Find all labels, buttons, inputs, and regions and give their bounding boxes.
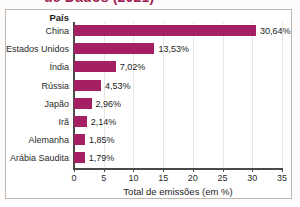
x-axis-tick	[223, 168, 224, 172]
x-axis-tick-label: 25	[218, 173, 228, 183]
bar-category-label: Irã	[6, 117, 69, 127]
bar	[74, 134, 85, 145]
x-axis-tick-label: 20	[188, 173, 198, 183]
chart-frame: País 05101520253035 China30,64%Estados U…	[5, 9, 292, 199]
bar	[74, 25, 256, 36]
bar-value-label: 2,96%	[96, 99, 122, 109]
page-edge	[0, 201, 300, 207]
x-axis-tick-label: 0	[71, 173, 76, 183]
bar-value-label: 1,79%	[89, 153, 115, 163]
bar-category-label: Rússia	[6, 81, 69, 91]
bar	[74, 43, 154, 54]
chart-title-text: de Dados (2021)	[44, 0, 154, 5]
x-axis-tick-label: 30	[247, 173, 257, 183]
bar	[74, 116, 87, 127]
x-axis-tick-label: 10	[128, 173, 138, 183]
x-axis-tick	[74, 168, 75, 172]
bar-value-label: 13,53%	[158, 44, 189, 54]
bar-value-label: 4,53%	[105, 81, 131, 91]
x-axis-tick	[193, 168, 194, 172]
bar-value-label: 1,85%	[89, 135, 115, 145]
clipped-chart-title: de Dados (2021)	[0, 0, 300, 7]
bar-value-label: 2,14%	[91, 117, 117, 127]
x-axis-tick-label: 15	[158, 173, 168, 183]
gridline	[223, 22, 224, 168]
bar	[74, 80, 101, 91]
gridline	[282, 22, 283, 168]
x-axis-tick	[282, 168, 283, 172]
bar-category-label: Arábia Saudita	[6, 153, 69, 163]
bar-category-label: Índia	[6, 62, 69, 72]
x-axis-tick-label: 35	[277, 173, 287, 183]
bar-category-label: China	[6, 26, 69, 36]
x-axis-tick	[252, 168, 253, 172]
bar	[74, 98, 92, 109]
bar	[74, 61, 116, 72]
gridline	[193, 22, 194, 168]
bar-value-label: 7,02%	[120, 62, 146, 72]
gridline	[252, 22, 253, 168]
bar-category-label: Japão	[6, 99, 69, 109]
category-column-header: País	[6, 12, 69, 23]
bar	[74, 152, 85, 163]
x-axis-tick	[104, 168, 105, 172]
x-axis-tick	[163, 168, 164, 172]
x-axis-tick-label: 5	[101, 173, 106, 183]
x-axis-tick	[133, 168, 134, 172]
x-axis-title: Total de emissões (em %)	[73, 186, 283, 197]
bar-value-label: 30,64%	[260, 26, 291, 36]
bar-category-label: Alemanha	[6, 135, 69, 145]
bar-category-label: Estados Unidos	[6, 44, 69, 54]
